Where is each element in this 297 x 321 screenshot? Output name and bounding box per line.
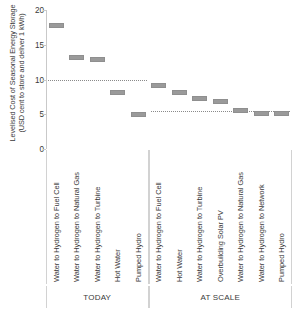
- plot-area: [46, 10, 292, 149]
- y-tick-mark: [43, 10, 46, 11]
- y-tick-mark: [43, 80, 46, 81]
- category-label: Water to Hydrogen to Fuel Cell: [52, 152, 61, 282]
- category-label: Water to Hydrogen to Turbine: [195, 152, 204, 282]
- data-marker: [69, 55, 84, 60]
- y-tick-label: 10: [24, 75, 44, 84]
- category-label: Water to Hydrogen to Natural Gas: [72, 152, 81, 282]
- data-marker: [254, 111, 269, 116]
- category-label: Water to Hydrogen to Fuel Cell: [154, 152, 163, 282]
- y-tick-label: 0: [24, 145, 44, 154]
- y-axis-tick-labels: 20151050: [20, 0, 44, 152]
- data-marker: [192, 96, 207, 101]
- reference-line: [48, 80, 147, 81]
- chart-figure: Levelised Cost of Seasonal Energy Storag…: [0, 0, 297, 321]
- panel-title-today: TODAY: [46, 286, 149, 308]
- data-marker: [172, 90, 187, 95]
- reference-line: [151, 111, 291, 112]
- data-marker: [131, 112, 146, 117]
- data-marker: [151, 83, 166, 88]
- data-marker: [233, 108, 248, 113]
- y-tick-label: 15: [24, 40, 44, 49]
- data-marker: [90, 57, 105, 62]
- panel-title-at-scale: AT SCALE: [149, 286, 293, 308]
- data-marker: [49, 23, 64, 28]
- y-tick-mark: [43, 114, 46, 115]
- category-label: Water to Hydrogen to Natural Gas: [236, 152, 245, 282]
- panel-title-text: TODAY: [83, 293, 111, 302]
- y-axis-line: [46, 10, 47, 149]
- category-label: Overbuilding Solar PV: [216, 152, 225, 282]
- data-marker: [110, 90, 125, 95]
- data-marker: [213, 99, 228, 104]
- category-label: Pumped Hydro: [134, 152, 143, 282]
- y-tick-label: 5: [24, 110, 44, 119]
- y-tick-mark: [43, 45, 46, 46]
- category-label: Water to Hydrogen to Network: [257, 152, 266, 282]
- category-label-band: Water to Hydrogen to Fuel CellWater to H…: [46, 150, 292, 284]
- y-tick-label: 20: [24, 6, 44, 15]
- panel-group-titles: TODAYAT SCALE: [46, 286, 292, 308]
- category-label: Hot Water: [113, 152, 122, 282]
- panel-title-text: AT SCALE: [200, 293, 240, 302]
- data-marker: [274, 111, 289, 116]
- category-label: Pumped Hydro: [277, 152, 286, 282]
- category-label: Water to Hydrogen to Turbine: [93, 152, 102, 282]
- category-label: Hot Water: [175, 152, 184, 282]
